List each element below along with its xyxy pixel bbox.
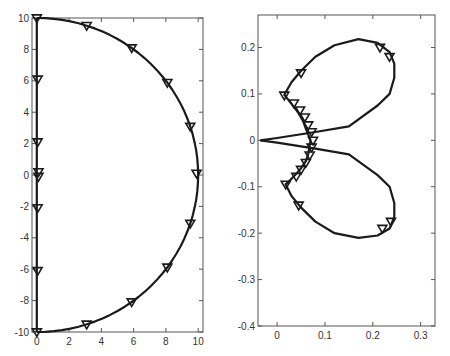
y-tick-label: -6 bbox=[20, 264, 29, 275]
y-tick-label: 6 bbox=[23, 75, 29, 86]
x-tick-label: 8 bbox=[163, 336, 169, 347]
series-line bbox=[260, 140, 394, 238]
y-tick-label: -0.4 bbox=[238, 321, 256, 332]
x-tick-label: 0.3 bbox=[414, 330, 428, 341]
axes-frame bbox=[32, 18, 203, 332]
y-tick-label: -0.1 bbox=[238, 181, 256, 192]
y-tick-label: -8 bbox=[20, 295, 29, 306]
y-tick-label: 10 bbox=[18, 13, 30, 24]
y-tick-label: -4 bbox=[20, 232, 29, 243]
y-tick-label: 0 bbox=[249, 135, 255, 146]
y-tick-label: -10 bbox=[15, 327, 30, 338]
left-plot-nyquist-contour: 0246810-10-8-6-4-20246810 bbox=[15, 13, 205, 348]
x-tick-label: 4 bbox=[99, 336, 105, 347]
y-tick-label: 0.1 bbox=[241, 88, 255, 99]
x-tick-label: 2 bbox=[66, 336, 72, 347]
y-tick-label: 0.2 bbox=[241, 42, 255, 53]
y-tick-label: -0.3 bbox=[238, 274, 256, 285]
series-line bbox=[260, 39, 394, 140]
y-tick-label: -2 bbox=[20, 201, 29, 212]
series-line bbox=[37, 18, 198, 332]
y-tick-label: -0.2 bbox=[238, 228, 256, 239]
y-tick-label: 0 bbox=[23, 170, 29, 181]
axes-frame bbox=[258, 15, 435, 326]
y-tick-label: 8 bbox=[23, 44, 29, 55]
x-tick-label: 0.1 bbox=[318, 330, 332, 341]
figure: 0246810-10-8-6-4-20246810 00.10.20.3-0.4… bbox=[0, 0, 450, 356]
x-tick-label: 0.2 bbox=[366, 330, 380, 341]
right-plot-nyquist-diagram: 00.10.20.3-0.4-0.3-0.2-0.100.10.2 bbox=[238, 15, 435, 341]
triangle-down-marker-icon bbox=[192, 170, 201, 178]
y-tick-label: 2 bbox=[23, 138, 29, 149]
x-tick-label: 0 bbox=[274, 330, 280, 341]
x-tick-label: 10 bbox=[193, 336, 205, 347]
y-tick-label: 4 bbox=[23, 107, 29, 118]
x-tick-label: 6 bbox=[131, 336, 137, 347]
